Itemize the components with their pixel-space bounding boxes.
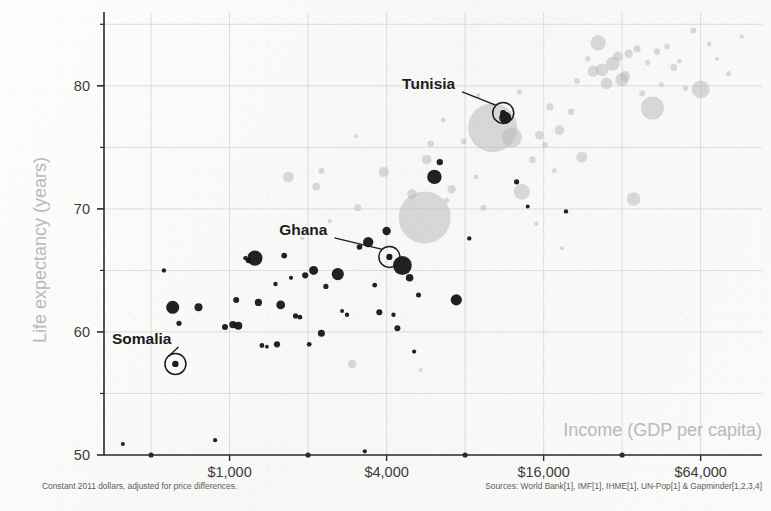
chart-page: 50607080$1,000$4,000$16,000$64,000 Somal… xyxy=(0,0,771,511)
data-bubble xyxy=(348,360,357,369)
y-tick-label: 80 xyxy=(74,78,90,94)
data-bubble xyxy=(591,35,606,50)
data-bubble xyxy=(641,97,664,120)
data-bubble xyxy=(289,276,293,280)
data-bubble xyxy=(633,45,640,52)
data-bubble xyxy=(318,330,325,337)
callout-leader-line xyxy=(168,347,178,357)
data-bubble xyxy=(255,299,262,306)
data-bubble xyxy=(726,71,731,76)
x-minor-tick-marker xyxy=(620,452,625,457)
bubble-chart-svg: 50607080$1,000$4,000$16,000$64,000 Somal… xyxy=(0,0,771,511)
callout-dot xyxy=(173,361,178,366)
y-axis-title: Life expectancy (years) xyxy=(30,157,50,343)
data-bubble xyxy=(394,325,400,331)
data-bubble xyxy=(265,345,269,349)
data-bubble xyxy=(419,368,423,372)
data-bubble xyxy=(222,324,228,330)
x-minor-tick-marker xyxy=(463,452,468,457)
data-bubble xyxy=(517,89,522,94)
data-bubble xyxy=(659,82,664,87)
data-bubble xyxy=(654,48,660,54)
data-bubble xyxy=(307,342,312,347)
callout-somalia: Somalia xyxy=(112,330,186,375)
data-bubble xyxy=(664,44,670,50)
data-bubble xyxy=(379,167,389,177)
data-bubble xyxy=(568,109,574,115)
data-bubble xyxy=(683,86,688,91)
data-bubble xyxy=(451,294,462,305)
data-bubble xyxy=(376,309,382,315)
callout-label: Tunisia xyxy=(402,75,455,92)
callout-ghana: Ghana xyxy=(279,221,400,268)
data-bubble xyxy=(422,155,432,165)
data-bubble xyxy=(444,198,449,203)
x-minor-tick-marker xyxy=(148,452,153,457)
data-bubble xyxy=(692,81,710,99)
data-bubble xyxy=(293,313,298,318)
data-bubble xyxy=(526,204,530,208)
data-bubble xyxy=(560,246,564,250)
data-bubble xyxy=(354,204,361,211)
data-bubble xyxy=(345,313,349,317)
data-bubble xyxy=(437,159,443,165)
data-bubble xyxy=(576,152,587,163)
data-bubble xyxy=(502,128,522,148)
data-bubble xyxy=(690,28,696,34)
data-bubble xyxy=(514,179,519,184)
data-bubble xyxy=(260,343,265,348)
y-tick-label: 50 xyxy=(74,447,90,463)
data-bubble xyxy=(670,64,677,71)
x-minor-tick-marker xyxy=(305,452,310,457)
data-bubble xyxy=(234,322,242,330)
callout-dot xyxy=(501,110,506,115)
data-bubble xyxy=(441,118,446,123)
data-bubble xyxy=(427,140,434,147)
data-bubble xyxy=(274,341,280,347)
data-bubble xyxy=(406,274,414,282)
data-bubble xyxy=(302,272,308,278)
data-bubble xyxy=(399,192,451,244)
data-bubble xyxy=(715,57,719,61)
x-axis-title: Income (GDP per capita) xyxy=(563,420,762,440)
data-bubble xyxy=(627,192,641,206)
callout-dot xyxy=(387,254,392,259)
data-bubble xyxy=(273,282,277,286)
data-bubble xyxy=(391,313,395,317)
data-bubble xyxy=(372,283,377,288)
data-bubble xyxy=(613,52,623,62)
data-bubble xyxy=(555,125,565,135)
data-bubble xyxy=(552,168,557,173)
data-bubble xyxy=(298,315,303,320)
footnote-right: Sources: World Bank[1], IMF[1], IHME[1],… xyxy=(485,481,762,491)
data-bubble xyxy=(412,350,416,354)
data-bubble xyxy=(529,156,536,163)
x-tick-label: $64,000 xyxy=(674,464,726,480)
footnote-left: Constant 2011 dollars, adjusted for pric… xyxy=(42,481,237,491)
data-bubble xyxy=(323,284,328,289)
data-bubble xyxy=(283,172,294,183)
data-bubble xyxy=(382,227,390,235)
data-bubble xyxy=(121,442,125,446)
data-bubble xyxy=(318,168,324,174)
data-bubble xyxy=(574,78,580,84)
data-bubble xyxy=(176,321,181,326)
data-bubble xyxy=(276,301,285,310)
data-bubble xyxy=(585,56,590,61)
data-bubble xyxy=(639,90,645,96)
data-bubble xyxy=(416,293,421,298)
data-bubble xyxy=(535,131,544,140)
data-bubble xyxy=(363,449,367,453)
data-bubble xyxy=(677,59,681,63)
data-bubble xyxy=(447,185,455,193)
data-bubble xyxy=(233,297,239,303)
y-tick-label: 70 xyxy=(74,201,90,217)
data-bubble xyxy=(328,219,332,223)
data-bubble xyxy=(625,50,633,58)
data-bubble xyxy=(546,103,553,110)
data-bubble xyxy=(514,184,530,200)
x-tick-label: $16,000 xyxy=(517,464,569,480)
callout-label: Ghana xyxy=(279,221,328,238)
x-tick-label: $1,000 xyxy=(207,464,251,480)
data-bubble xyxy=(542,142,548,148)
